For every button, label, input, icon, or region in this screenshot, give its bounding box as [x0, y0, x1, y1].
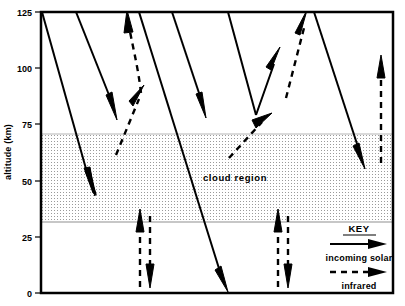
diagram-canvas: 125 100 75 50 25 0 altitude (km) cloud r…: [0, 0, 405, 306]
infrared-arrow-lower-left-down: [146, 216, 154, 288]
y-axis-title: altitude (km): [3, 124, 13, 180]
cloud-region-label: cloud region: [203, 172, 267, 183]
infrared-arrow-left-upper: [124, 10, 141, 93]
y-tick-label-75: 75: [22, 120, 32, 130]
y-tick-label-50: 50: [22, 177, 32, 187]
atmosphere-radiation-diagram: 125 100 75 50 25 0 altitude (km) cloud r…: [0, 0, 405, 306]
key-solid-arrow-icon: [330, 239, 387, 249]
key-legend: KEY incoming solar infrared: [326, 223, 393, 291]
y-tick-label-0: 0: [27, 289, 32, 299]
key-infrared-label: infrared: [341, 281, 376, 291]
y-tick-label-100: 100: [17, 64, 32, 74]
key-dashed-arrow-icon: [330, 267, 387, 277]
solar-arrow-5-down: [228, 12, 256, 115]
y-tick-label-125: 125: [17, 8, 32, 18]
infrared-arrow-right-diagonal: [286, 10, 307, 98]
key-title: KEY: [348, 223, 369, 234]
solar-arrow-4: [172, 12, 206, 118]
y-tick-label-25: 25: [22, 233, 32, 243]
key-incoming-solar-label: incoming solar: [326, 253, 393, 263]
solar-arrow-2: [76, 12, 117, 120]
solar-arrow-6-up: [256, 47, 280, 115]
infrared-arrow-lower-right-down: [284, 216, 292, 288]
